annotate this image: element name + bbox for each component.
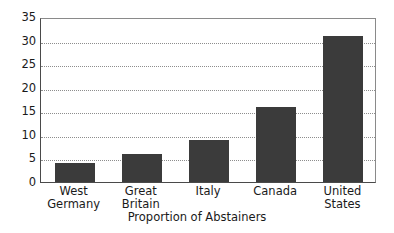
plot-area <box>40 18 376 183</box>
y-tick-label: 0 <box>14 177 36 189</box>
bar <box>256 107 296 182</box>
x-tick-label: GreatBritain <box>107 185 174 211</box>
x-tick-label: Italy <box>174 185 241 198</box>
bar <box>323 36 363 182</box>
y-axis-tick-labels: 05101520253035 <box>14 0 36 233</box>
y-tick-label: 15 <box>14 106 36 118</box>
y-tick-label: 10 <box>14 130 36 142</box>
bar-chart-figure: 05101520253035 WestGermanyGreatBritainIt… <box>0 0 394 233</box>
bar <box>189 140 229 182</box>
x-tick-label-line2: Germany <box>40 198 107 211</box>
x-axis-title: Proportion of Abstainers <box>0 211 394 224</box>
x-tick-label-line1: Italy <box>196 184 221 198</box>
x-tick-label: Canada <box>242 185 309 198</box>
bar <box>55 163 95 182</box>
bar-series <box>41 19 375 182</box>
y-tick-label: 5 <box>14 153 36 165</box>
x-axis-category-labels: WestGermanyGreatBritainItalyCanadaUnited… <box>40 185 376 213</box>
bar <box>122 154 162 182</box>
y-tick-label: 20 <box>14 83 36 95</box>
x-tick-label-line1: West <box>59 184 87 198</box>
x-tick-label-line1: United <box>323 184 361 198</box>
y-tick-label: 35 <box>14 12 36 24</box>
y-tick-label: 30 <box>14 36 36 48</box>
y-tick-label: 25 <box>14 59 36 71</box>
x-tick-label-line2: States <box>309 198 376 211</box>
x-tick-label: WestGermany <box>40 185 107 211</box>
x-tick-label-line1: Canada <box>253 184 297 198</box>
x-tick-label: UnitedStates <box>309 185 376 211</box>
x-tick-label-line1: Great <box>125 184 157 198</box>
